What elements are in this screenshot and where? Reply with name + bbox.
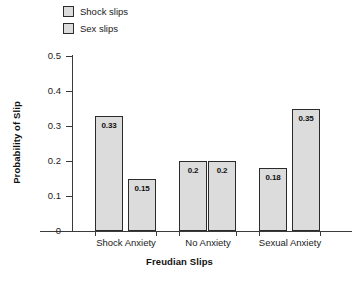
legend-swatch-sex-slips bbox=[63, 23, 74, 34]
bar-shock-anxiety-sex-slips[interactable]: 0.15 bbox=[128, 179, 156, 232]
y-axis-title-text: Probability of Slip bbox=[11, 101, 22, 184]
x-category-label-shock-anxiety: Shock Anxiety bbox=[96, 237, 156, 249]
bar-value-shock-anxiety-sex-slips: 0.15 bbox=[129, 184, 155, 193]
x-category-label-no-anxiety: No Anxiety bbox=[185, 237, 230, 249]
bar-sexual-anxiety-shock-slips[interactable]: 0.18 bbox=[259, 168, 287, 231]
legend-label-sex-slips: Sex slips bbox=[80, 23, 118, 34]
legend-label-shock-slips: Shock slips bbox=[80, 6, 128, 17]
x-tick-2 bbox=[156, 231, 157, 236]
bar-value-no-anxiety-shock-slips: 0.2 bbox=[180, 166, 206, 175]
x-tick-4 bbox=[236, 231, 237, 236]
bar-no-anxiety-shock-slips[interactable]: 0.2 bbox=[179, 161, 207, 231]
y-tick-label-0.1: 0.1 bbox=[48, 190, 61, 201]
bar-chart: Shock slips Sex slips Probability of Sli… bbox=[0, 0, 359, 284]
legend-item-shock-slips: Shock slips bbox=[63, 5, 128, 18]
y-tick-label-0.5: 0.5 bbox=[48, 50, 61, 61]
x-tick-5 bbox=[259, 231, 260, 236]
y-tick-label-0.4: 0.4 bbox=[48, 85, 61, 96]
legend-swatch-shock-slips bbox=[63, 6, 74, 17]
y-tick-label-0.3: 0.3 bbox=[48, 120, 61, 131]
chart-legend: Shock slips Sex slips bbox=[63, 5, 128, 35]
bar-value-sexual-anxiety-sex-slips: 0.35 bbox=[293, 114, 319, 123]
x-category-label-sexual-anxiety: Sexual Anxiety bbox=[259, 237, 321, 249]
x-axis-title: Freudian Slips bbox=[0, 256, 359, 267]
y-tick-label-0.2: 0.2 bbox=[48, 155, 61, 166]
bar-shock-anxiety-shock-slips[interactable]: 0.33 bbox=[95, 116, 123, 232]
y-tick-label-0: 0 bbox=[56, 225, 61, 236]
y-tick-0: 0 bbox=[66, 231, 72, 232]
bar-value-sexual-anxiety-shock-slips: 0.18 bbox=[260, 173, 286, 182]
plot-area: 0.33 0.15 0.2 0.2 0.18 0.35 bbox=[72, 56, 342, 231]
x-tick-3 bbox=[179, 231, 180, 236]
bar-value-shock-anxiety-shock-slips: 0.33 bbox=[96, 121, 122, 130]
legend-item-sex-slips: Sex slips bbox=[63, 22, 128, 35]
bar-no-anxiety-sex-slips[interactable]: 0.2 bbox=[208, 161, 236, 231]
x-tick-1 bbox=[95, 231, 96, 236]
bar-value-no-anxiety-sex-slips: 0.2 bbox=[209, 166, 235, 175]
y-axis-title: Probability of Slip bbox=[8, 86, 24, 198]
x-tick-6 bbox=[320, 231, 321, 236]
x-axis-line bbox=[40, 231, 352, 232]
bar-sexual-anxiety-sex-slips[interactable]: 0.35 bbox=[292, 109, 320, 232]
